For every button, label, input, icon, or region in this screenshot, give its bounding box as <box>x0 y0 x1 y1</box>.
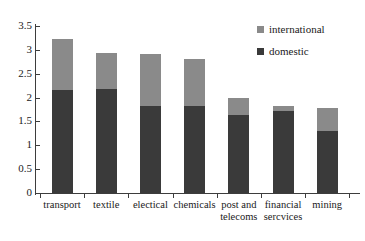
x-tick-mark <box>349 194 350 198</box>
bar-segment-international[interactable] <box>317 108 338 131</box>
x-tick-mark <box>217 194 218 198</box>
bar-segment-domestic[interactable] <box>184 106 205 193</box>
y-tick-label: 0.5 <box>4 163 32 174</box>
x-tick-mark <box>40 194 41 198</box>
y-tick-label: 1.5 <box>4 115 32 126</box>
stacked-bar-chart: 3.532.521.510.50 transporttextileelectic… <box>0 0 365 241</box>
bar-electical[interactable] <box>140 54 161 193</box>
y-tick-label: 1 <box>4 139 32 150</box>
bar-segment-international[interactable] <box>96 53 117 90</box>
legend-label: domestic <box>269 46 309 57</box>
bar-segment-international[interactable] <box>184 59 205 106</box>
bar-segment-international[interactable] <box>228 98 249 116</box>
bar-transport[interactable] <box>52 39 73 193</box>
x-tick-mark <box>128 194 129 198</box>
y-tick-label: 3 <box>4 44 32 55</box>
bar-segment-domestic[interactable] <box>52 90 73 193</box>
x-tick-mark <box>261 194 262 198</box>
y-tick-label: 2 <box>4 92 32 103</box>
legend-item-international[interactable]: international <box>257 24 325 35</box>
bar-mining[interactable] <box>317 108 338 193</box>
bar-segment-domestic[interactable] <box>140 106 161 193</box>
bar-segment-domestic[interactable] <box>317 131 338 194</box>
x-label-mining: mining <box>294 199 360 211</box>
bar-segment-domestic[interactable] <box>96 89 117 193</box>
x-label-line1: textile <box>93 199 119 210</box>
x-label-line2: sercvices <box>250 211 316 223</box>
bar-segment-domestic[interactable] <box>273 111 294 193</box>
bar-segment-international[interactable] <box>52 39 73 91</box>
legend-swatch-icon <box>257 48 264 55</box>
x-tick-mark <box>84 194 85 198</box>
legend-swatch-icon <box>257 26 264 33</box>
bar-post-and-telecoms[interactable] <box>228 98 249 193</box>
x-tick-mark <box>305 194 306 198</box>
y-tick-label: 2.5 <box>4 68 32 79</box>
bar-textile[interactable] <box>96 53 117 193</box>
x-label-line1: mining <box>312 199 342 210</box>
bar-segment-domestic[interactable] <box>228 115 249 193</box>
y-tick-label: 3.5 <box>4 20 32 31</box>
chart-legend: internationaldomestic <box>257 24 325 68</box>
legend-label: international <box>269 24 325 35</box>
legend-item-domestic[interactable]: domestic <box>257 46 325 57</box>
x-tick-mark <box>173 194 174 198</box>
bar-segment-international[interactable] <box>140 54 161 106</box>
bar-financial-sercvices[interactable] <box>273 106 294 193</box>
bar-chemicals[interactable] <box>184 59 205 193</box>
y-tick-label: 0 <box>4 187 32 198</box>
